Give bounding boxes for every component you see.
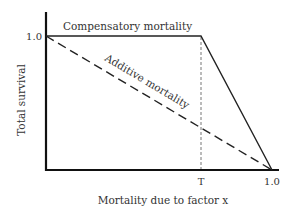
x-tick-t: T — [198, 176, 205, 187]
y-tick-1-0: 1.0 — [26, 31, 42, 42]
y-axis-label: Total survival — [15, 64, 27, 136]
compensatory-mortality-label: Compensatory mortality — [63, 20, 192, 32]
additive-mortality-line — [46, 36, 272, 170]
mortality-chart: 1.0 T 1.0 Mortality due to factor x Tota… — [0, 0, 295, 213]
x-axis-label: Mortality due to factor x — [98, 194, 229, 206]
x-tick-1-0: 1.0 — [264, 176, 280, 187]
additive-mortality-label: Additive mortality — [102, 51, 192, 111]
